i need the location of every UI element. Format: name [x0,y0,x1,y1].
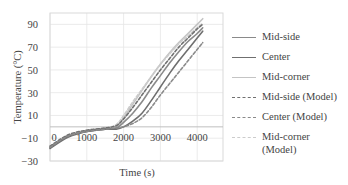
x-tick-label: 1000 [76,132,97,143]
y-tick-label: 90 [28,19,39,30]
series-line-mid-corner [50,19,203,148]
legend-label: Mid-corner (Model) [262,130,332,156]
x-tick-label: 3000 [150,132,171,143]
x-tick-label: 0 [51,132,56,143]
series-line-mid-cornermodel [50,23,203,146]
y-axis-title: Temperature (°C) [12,50,24,124]
legend-item-mid-side: Mid-side [232,28,348,48]
y-tick-label: 30 [28,88,39,99]
legend: Mid-side Center Mid-corner Mid-side (Mod… [232,28,348,160]
legend-swatch-center [232,57,256,58]
legend-label: Mid-side [262,30,300,43]
legend-swatch-mid-corner-model [232,137,256,138]
y-tick-label: 10 [28,110,39,121]
legend-swatch-mid-side [232,37,256,38]
legend-swatch-mid-corner [232,77,256,78]
legend-swatch-mid-side-model [232,97,256,98]
legend-item-mid-corner: Mid-corner [232,68,348,88]
legend-item-mid-side-model: Mid-side (Model) [232,88,348,108]
legend-swatch-center-model [232,117,256,118]
legend-label: Center (Model) [262,110,327,123]
legend-label: Mid-side (Model) [262,90,337,103]
x-axis-title: Time (s) [119,167,155,179]
y-tick-label: 50 [28,65,39,76]
y-tick-label: −30 [22,156,38,167]
legend-label: Mid-corner [262,70,310,83]
y-tick-label: 70 [28,42,39,53]
legend-item-center-model: Center (Model) [232,108,348,128]
x-tick-label: 4000 [187,132,208,143]
legend-item-center: Center [232,48,348,68]
y-tick-label: −10 [22,133,38,144]
legend-item-mid-corner-model: Mid-corner (Model) [232,128,348,160]
legend-label: Center [262,50,290,63]
series-group [50,19,203,149]
x-tick-label: 2000 [113,132,134,143]
